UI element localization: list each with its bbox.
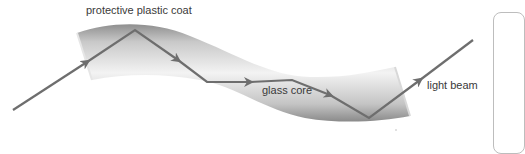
label-light-beam: light beam: [427, 79, 478, 91]
label-glass-core: glass core: [262, 84, 312, 96]
beam-segment-entry: [13, 62, 87, 110]
beam-segment-exit: [420, 40, 473, 80]
fiber-tube: [77, 24, 410, 121]
protective-plastic-coat-shape: [77, 24, 410, 121]
side-panel-frame: [493, 12, 525, 154]
speck: [395, 129, 397, 131]
label-protective-plastic-coat: protective plastic coat: [86, 4, 192, 16]
